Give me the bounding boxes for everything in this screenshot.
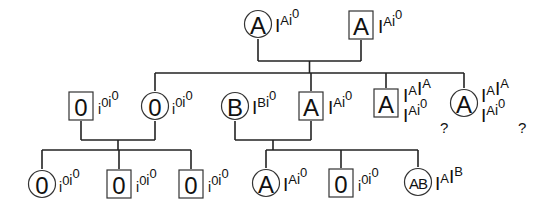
- female-individual-g3-female-ab: ABIAIB: [405, 164, 463, 196]
- female-individual-g3-female-o: 0i0i0: [29, 166, 80, 199]
- blood-type-label: 0: [74, 94, 87, 121]
- pedigree-diagram: AIAi0AIAi00i0i00i0i0BIBi0AIAi0AIAIAIAi0?…: [0, 0, 548, 211]
- male-individual-g2-male-a-uncertain: AIAIAIAi0?: [374, 76, 448, 136]
- allele-superscript: A: [408, 83, 417, 98]
- allele-superscript: 0: [300, 165, 307, 180]
- blood-type-label: 0: [35, 172, 48, 199]
- allele-superscript: 0: [292, 6, 299, 21]
- allele-superscript: 0: [149, 166, 156, 181]
- blood-type-label: 0: [148, 94, 161, 121]
- genotype-label: i0i0: [136, 166, 157, 195]
- allele-superscript: 0: [221, 166, 228, 181]
- male-individual-g3-male-o-2: 0i0i0: [179, 166, 229, 199]
- genotype-label: IAi0: [328, 88, 352, 118]
- blood-type-label: 0: [334, 171, 347, 198]
- female-individual-g1-mother: AIAi0: [245, 6, 300, 39]
- genotype-label: i0i0: [59, 166, 80, 195]
- blood-type-label: 0: [112, 172, 125, 199]
- pedigree-individuals: AIAi0AIAi00i0i00i0i0BIBi0AIAi0AIAIAIAi0?…: [29, 6, 527, 199]
- genotype-label: i0i0: [172, 88, 193, 117]
- allele-superscript: 0: [72, 166, 79, 181]
- blood-type-label: 0: [184, 172, 197, 199]
- allele-superscript: A: [408, 103, 417, 118]
- allele-superscript: 0: [420, 96, 427, 111]
- blood-type-label: A: [353, 13, 369, 40]
- allele-superscript: 0: [175, 95, 182, 110]
- allele-superscript: 0: [111, 88, 118, 103]
- allele-superscript: 0: [139, 173, 146, 188]
- female-individual-g2-female-b: BIBi0: [222, 88, 277, 121]
- female-individual-g2-female-o: 0i0i0: [142, 88, 193, 121]
- allele-superscript: 0: [269, 88, 276, 103]
- allele-superscript: A: [383, 14, 392, 29]
- allele-superscript: 0: [62, 173, 69, 188]
- allele-superscript: A: [486, 103, 495, 118]
- blood-type-label: B: [227, 94, 243, 121]
- male-individual-g2-male-a: AIAi0: [299, 88, 352, 121]
- blood-type-label: A: [456, 91, 472, 118]
- blood-type-label: A: [303, 94, 319, 121]
- genotype-label: IBi0: [252, 88, 276, 118]
- blood-type-label: A: [378, 91, 394, 118]
- genotype-label: i0i0: [358, 165, 379, 194]
- genotype-label: i0i0: [98, 88, 119, 117]
- female-individual-g3-female-a: AIAi0: [253, 165, 308, 198]
- genotype-label: IAIB: [435, 164, 463, 194]
- allele-superscript: A: [500, 76, 509, 91]
- genotype-label: IAi0: [378, 7, 402, 37]
- genotype-label: i0i0: [208, 166, 229, 195]
- allele-superscript: A: [280, 13, 289, 28]
- blood-type-label: A: [250, 12, 266, 39]
- allele-superscript: A: [486, 83, 495, 98]
- male-individual-g1-father: AIAi0: [349, 7, 402, 40]
- allele-superscript: A: [333, 95, 342, 110]
- genotype-label: IAi0: [275, 6, 299, 36]
- allele-superscript: 0: [395, 7, 402, 22]
- male-individual-g2-male-o: 0i0i0: [69, 88, 119, 121]
- allele-superscript: B: [257, 95, 266, 110]
- allele-superscript: A: [422, 76, 431, 91]
- uncertain-mark: ?: [518, 119, 526, 136]
- allele-superscript: 0: [211, 173, 218, 188]
- allele-superscript: 0: [345, 88, 352, 103]
- allele-superscript: B: [454, 164, 463, 179]
- male-individual-g3-male-o-1: 0i0i0: [107, 166, 157, 199]
- male-individual-g3-male-o-3: 0i0i0: [329, 165, 379, 198]
- blood-type-label: A: [258, 171, 274, 198]
- allele-superscript: 0: [185, 88, 192, 103]
- blood-type-label: AB: [409, 175, 428, 192]
- genotype-label: IAi0: [283, 165, 307, 195]
- allele-superscript: A: [440, 171, 449, 186]
- allele-superscript: 0: [498, 96, 505, 111]
- allele-superscript: 0: [371, 165, 378, 180]
- allele-superscript: A: [288, 172, 297, 187]
- female-individual-g2-female-a-uncertain: AIAIAIAi0?: [451, 76, 527, 136]
- uncertain-mark: ?: [440, 119, 448, 136]
- allele-superscript: 0: [361, 172, 368, 187]
- allele-superscript: 0: [101, 95, 108, 110]
